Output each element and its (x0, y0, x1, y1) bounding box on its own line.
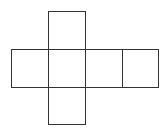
net-square-top (48, 11, 86, 50)
cube-net-diagram (0, 0, 167, 130)
net-square-right-2 (122, 49, 159, 88)
net-square-left (11, 49, 49, 88)
net-square-right-1 (85, 49, 123, 88)
net-square-bottom (48, 87, 86, 125)
net-square-center (48, 49, 86, 88)
